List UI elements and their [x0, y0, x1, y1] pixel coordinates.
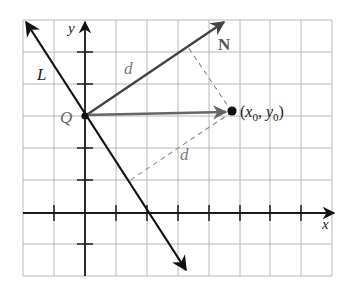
normal-N-label: N — [218, 35, 231, 54]
y-axis-label: y — [66, 20, 75, 36]
distance-label-upper: d — [124, 59, 133, 78]
x-axis-label: x — [321, 216, 329, 232]
normal-vector-N — [85, 22, 224, 116]
point-x0-y0 — [227, 106, 236, 115]
vector-q-to-point — [85, 112, 226, 115]
line-L-label: L — [36, 65, 46, 84]
distance-label-lower: d — [180, 145, 189, 164]
dash-to-normal — [188, 47, 232, 112]
point-q-label: Q — [60, 108, 72, 127]
line-L — [26, 22, 186, 270]
point-q — [81, 112, 88, 119]
diagram-canvas: y x L Q N d d (x0, y0) — [0, 0, 346, 283]
point-x0-y0-label: (x0, y0) — [240, 103, 284, 123]
